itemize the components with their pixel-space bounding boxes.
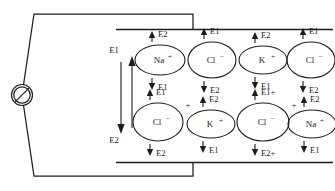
ion-down-label: E1 (209, 145, 218, 155)
ion-arrow-down-head (252, 82, 258, 89)
field-arrow-up (128, 56, 135, 128)
ion-down-label: E2+ (261, 148, 275, 158)
ion-up-label: E1 (210, 26, 219, 36)
ion-charge-label: − (271, 115, 275, 123)
ion-arrow-down-head (301, 146, 307, 153)
ion-species-label: K (259, 55, 266, 65)
ion-charge-label: + (320, 117, 324, 125)
ion-group: Na+E2E1 (135, 29, 185, 92)
ion-layer: Na+E2E1Cl−E1E2K+E2E1Cl−E1E2Cl−+E1E2K+E2E… (133, 26, 335, 158)
ion-species-label: Na (306, 119, 317, 129)
field-label-bottom: E2 (109, 135, 118, 145)
field-label-top: E1 (109, 45, 118, 55)
ion-species-label: Na (154, 55, 165, 65)
ion-arrow-down-head (201, 86, 207, 93)
figure-canvas: E1 E2 Na+E2E1Cl−E1E2K+E2E1Cl−E1E2Cl−+E1E… (0, 0, 335, 191)
field-indicator: E1 E2 (109, 45, 135, 145)
ion-arrow-up-head (147, 89, 153, 96)
slashed-circle-source[interactable] (12, 85, 33, 106)
ion-up-label: E1 (309, 26, 318, 36)
ion-arrow-up-head (200, 96, 206, 103)
ion-charge-label: − (220, 53, 224, 61)
ion-arrow-up-head (301, 96, 307, 103)
wire-bottom (22, 95, 193, 176)
ion-charge-label: + (168, 53, 172, 61)
ion-group: K+E2E1 (239, 30, 287, 91)
ion-up-label: E1 (156, 87, 165, 97)
ion-down-label: E1 (310, 145, 319, 155)
ion-arrow-down-head (200, 146, 206, 153)
ion-arrow-up-head (149, 31, 155, 38)
ion-group: Cl−E1E2 (287, 26, 335, 95)
ion-arrow-down-head (149, 83, 155, 90)
ion-species-label: Cl (258, 117, 267, 127)
ion-external-sign: + (292, 100, 297, 110)
ion-up-label: E2 (310, 94, 319, 104)
ion-arrow-up-head (252, 32, 258, 39)
ion-external-sign: + (186, 100, 191, 110)
ion-charge-label: + (271, 53, 275, 61)
field-arrow-down (117, 62, 124, 134)
ion-arrow-down-head (300, 86, 306, 93)
ion-group: Cl−E1E2 (188, 26, 236, 95)
ion-arrow-down-head (147, 149, 153, 156)
ion-charge-label: − (319, 53, 323, 61)
ion-species-label: Cl (153, 117, 162, 127)
ion-species-label: K (207, 119, 214, 129)
ion-group: K+E2E1 (187, 94, 235, 155)
circuit-wiring (22, 14, 333, 176)
ion-up-label: E2 (209, 94, 218, 104)
ion-species-label: Cl (207, 55, 216, 65)
ion-species-label: Cl (306, 55, 315, 65)
ion-up-label: E1+ (261, 87, 275, 97)
ion-charge-label: + (219, 117, 223, 125)
ion-charge-label: − (166, 115, 170, 123)
ion-arrow-down-head (252, 149, 258, 156)
ion-arrow-up-head (252, 89, 258, 96)
ion-up-label: E2 (261, 30, 270, 40)
ion-down-label: E2 (156, 148, 165, 158)
ion-up-label: E2 (158, 29, 167, 39)
ion-group: Cl−+E1E2 (133, 87, 191, 158)
